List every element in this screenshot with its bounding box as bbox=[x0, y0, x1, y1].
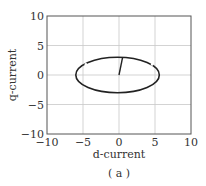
x-tick-label: −5 bbox=[75, 136, 91, 149]
y-tick-label: 10 bbox=[30, 10, 44, 23]
trajectory-gap bbox=[85, 63, 88, 66]
y-tick-label: −5 bbox=[28, 99, 44, 112]
x-tick-label: 10 bbox=[184, 136, 198, 149]
x-axis-label: d-current bbox=[93, 148, 146, 161]
y-tick-labels: −10−50510 bbox=[21, 10, 44, 141]
chart: −10−50510 −10−50510 d-current q-current … bbox=[0, 0, 206, 186]
figure-caption: ( a ) bbox=[108, 167, 130, 180]
transient-line bbox=[119, 57, 123, 75]
x-tick-label: 5 bbox=[152, 136, 159, 149]
y-tick-label: −10 bbox=[21, 128, 44, 141]
y-axis-label: q-current bbox=[6, 48, 19, 101]
y-tick-label: 5 bbox=[37, 40, 44, 53]
trajectory-gap bbox=[151, 63, 154, 66]
y-tick-label: 0 bbox=[37, 69, 44, 82]
